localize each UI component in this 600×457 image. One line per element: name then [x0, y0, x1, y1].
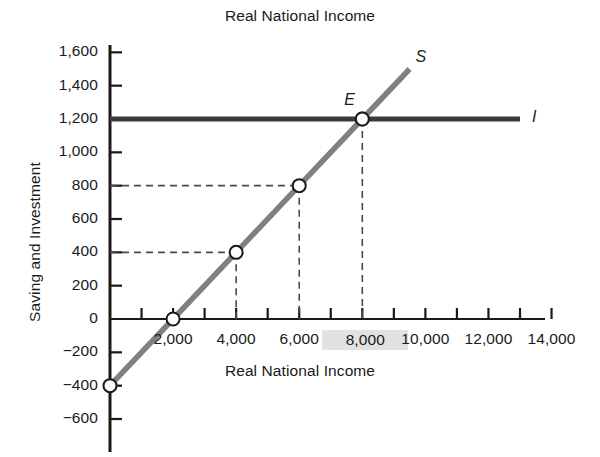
- data-point-marker: [230, 246, 243, 259]
- y-tick-label--400: −400: [34, 376, 98, 394]
- y-tick-label-0: 0: [34, 309, 98, 327]
- y-tick-label-1600: 1,600: [34, 42, 98, 60]
- curve-label-I: I: [532, 108, 537, 126]
- y-tick-label-800: 800: [34, 176, 98, 194]
- y-tick-label-600: 600: [34, 209, 98, 227]
- equilibrium-marker: [356, 113, 369, 126]
- guide-lines: [110, 119, 362, 319]
- data-point-marker: [104, 379, 117, 392]
- y-tick-label-1000: 1,000: [34, 142, 98, 160]
- y-tick-marks: [110, 52, 122, 419]
- y-tick-label-1400: 1,400: [34, 76, 98, 94]
- x-tick-label-14000: 14,000: [512, 330, 592, 348]
- data-point-marker: [293, 179, 306, 192]
- y-tick-label--600: −600: [34, 409, 98, 427]
- data-point-marker: [167, 313, 180, 326]
- x-tick-marks: [142, 308, 552, 319]
- y-tick-label-400: 400: [34, 242, 98, 260]
- saving-investment-chart-figure: Real National Income Real National Incom…: [0, 0, 600, 457]
- annotation-label-E: E: [344, 91, 355, 109]
- curve-label-S: S: [416, 48, 427, 66]
- y-tick-label-200: 200: [34, 276, 98, 294]
- y-tick-label--200: −200: [34, 342, 98, 360]
- y-tick-label-1200: 1,200: [34, 109, 98, 127]
